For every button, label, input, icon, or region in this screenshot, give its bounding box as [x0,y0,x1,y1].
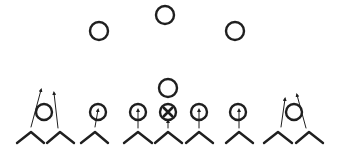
defender-middle-circle-icon [156,6,174,24]
chevron-5-icon [155,132,182,143]
player-7 [286,104,302,120]
offense-players [36,104,302,120]
chevron-8-icon [264,132,292,143]
chevron-3-icon [81,132,108,143]
play-diagram: Football play formation diagram [0,0,344,166]
defender-center-circle-icon [159,79,177,97]
chevron-1-icon [17,132,44,143]
route-1b-arrow-icon [54,93,58,128]
defender-right-circle-icon [226,22,244,40]
player-4-ball [160,104,176,120]
chevron-4-icon [124,132,152,143]
chevron-2-icon [47,132,74,143]
route-lines [31,90,306,128]
player-6 [230,104,246,120]
player-circle-icon [230,104,246,120]
chevron-9-icon [296,132,323,143]
player-circle-icon [36,104,52,120]
defender-left-circle-icon [90,22,108,40]
defense-players [90,6,244,97]
play-diagram-canvas [0,0,344,166]
player-circle-icon [286,104,302,120]
player-1 [36,104,52,120]
blocker-chevrons [17,132,323,143]
chevron-7-icon [226,132,253,143]
chevron-6-icon [186,132,213,143]
x-mark-icon [164,108,172,116]
route-8a-arrow-icon [281,99,285,127]
